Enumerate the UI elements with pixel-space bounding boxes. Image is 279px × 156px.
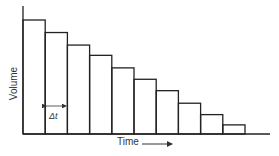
bar [223,125,245,134]
y-axis-label: Volume [8,59,19,109]
bar [201,115,223,134]
bar [156,91,178,134]
bar [90,55,112,134]
bar [67,45,89,134]
bar [134,79,156,134]
bar [178,103,200,134]
chart-canvas [0,0,279,156]
bar [112,68,134,134]
bar [23,20,45,134]
x-axis-label: Time [117,136,139,147]
delta-t-annotation: Δt [49,111,58,121]
